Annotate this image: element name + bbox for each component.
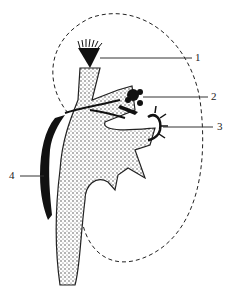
label-2: 2 bbox=[211, 91, 217, 102]
label-3: 3 bbox=[217, 121, 223, 132]
label-4: 4 bbox=[9, 170, 15, 181]
calyx-fan-fringe bbox=[78, 39, 102, 48]
label-1: 1 bbox=[195, 52, 201, 63]
calyx-fan-1 bbox=[78, 48, 100, 68]
branch-3-twigs bbox=[155, 106, 168, 138]
kidney-diagram bbox=[0, 0, 232, 300]
